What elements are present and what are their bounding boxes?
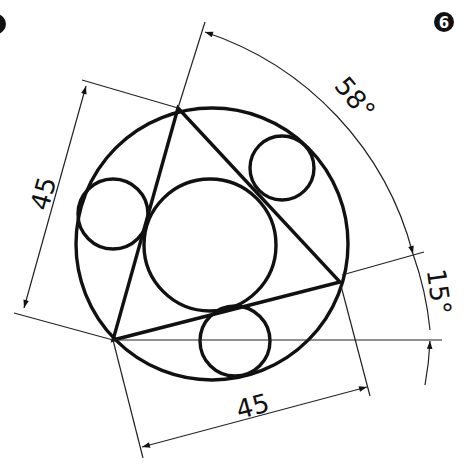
figure-number-badge: 6 — [434, 12, 454, 32]
left-small-circle — [78, 179, 148, 249]
badge-left-icon — [0, 14, 6, 34]
dimension-label-bottom: 45 — [233, 388, 273, 426]
main-geometry — [76, 108, 348, 380]
extension-line-angle-top — [178, 22, 205, 108]
dimension-lines — [14, 22, 442, 458]
technical-drawing: 6 45 45 58° 15° — [0, 0, 469, 466]
dimension-label-left: 45 — [24, 173, 62, 213]
angle-arc-58 — [205, 32, 413, 254]
inscribed-triangle — [113, 108, 340, 340]
center-circle — [144, 179, 276, 311]
angle-arc-15-arrow — [425, 341, 430, 385]
angle-label-15: 15° — [421, 267, 457, 317]
angle-label-58: 58° — [329, 71, 382, 126]
extension-line-top-left — [82, 80, 178, 108]
extension-line-bottom-right — [340, 282, 370, 396]
extension-line-angle-right — [342, 252, 424, 275]
upper-right-small-circle — [250, 136, 314, 200]
figure-number: 6 — [439, 14, 449, 32]
